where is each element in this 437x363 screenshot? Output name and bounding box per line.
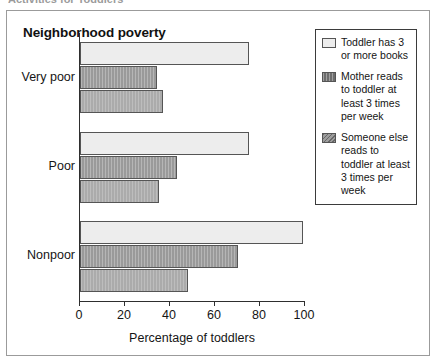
y-axis-tick-label: Nonpoor	[3, 248, 75, 262]
bar-group	[80, 132, 305, 203]
bar[interactable]	[80, 180, 159, 203]
x-axis-tick-label: 100	[284, 308, 324, 322]
x-axis-line	[79, 301, 305, 302]
x-axis-tick-mark	[169, 301, 170, 306]
x-axis-tick-label: 0	[59, 308, 99, 322]
plot-area: 020406080100 Percentage of toddlers	[79, 33, 305, 301]
bar[interactable]	[80, 66, 157, 89]
legend-swatch-icon	[322, 133, 336, 143]
top-caption-text: Activities for Toddlers	[8, 0, 123, 5]
x-axis-tick-mark	[79, 301, 80, 306]
y-axis-category-labels: Very poorPoorNonpoor	[7, 33, 75, 301]
bar-group	[80, 221, 305, 292]
x-axis-tick-mark	[214, 301, 215, 306]
bar[interactable]	[80, 245, 238, 268]
legend-swatch-icon	[322, 38, 336, 48]
legend-label: Toddler has 3 or more books	[341, 36, 411, 63]
figure-frame: Neighborhood poverty Very poorPoorNonpoo…	[6, 10, 430, 356]
x-axis-tick-label: 40	[149, 308, 189, 322]
bar[interactable]	[80, 221, 303, 244]
legend-label: Someone else reads to toddler at least 3…	[341, 131, 411, 198]
bar[interactable]	[80, 132, 249, 155]
x-axis-tick-mark	[304, 301, 305, 306]
x-axis-tick-label: 60	[194, 308, 234, 322]
legend-label: Mother reads to toddler at least 3 times…	[341, 70, 411, 124]
y-axis-tick-label: Very poor	[3, 70, 75, 84]
x-axis-tick-mark	[259, 301, 260, 306]
bar[interactable]	[80, 156, 177, 179]
bar-group	[80, 42, 305, 113]
x-axis-tick-label: 20	[104, 308, 144, 322]
legend: Toddler has 3 or more booksMother reads …	[315, 29, 417, 205]
legend-entry[interactable]: Mother reads to toddler at least 3 times…	[322, 70, 411, 124]
bar[interactable]	[80, 90, 163, 113]
legend-entry[interactable]: Someone else reads to toddler at least 3…	[322, 131, 411, 198]
y-axis-tick-label: Poor	[3, 159, 75, 173]
x-axis-tick-mark	[124, 301, 125, 306]
bar[interactable]	[80, 269, 188, 292]
x-axis-title: Percentage of toddlers	[79, 331, 305, 345]
top-caption-strip: Activities for Toddlers	[0, 0, 437, 7]
x-axis-tick-label: 80	[239, 308, 279, 322]
legend-entry[interactable]: Toddler has 3 or more books	[322, 36, 411, 63]
bar[interactable]	[80, 42, 249, 65]
legend-swatch-icon	[322, 72, 336, 82]
